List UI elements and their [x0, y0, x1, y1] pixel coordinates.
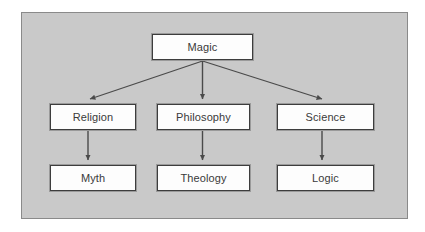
node-label-logic: Logic: [312, 173, 339, 184]
node-label-religion: Religion: [73, 112, 114, 123]
node-label-philosophy: Philosophy: [176, 112, 231, 123]
node-logic[interactable]: Logic: [277, 165, 374, 191]
node-magic[interactable]: Magic: [152, 34, 253, 60]
node-label-magic: Magic: [188, 42, 218, 53]
node-myth[interactable]: Myth: [50, 165, 136, 191]
node-religion[interactable]: Religion: [50, 104, 136, 130]
node-label-myth: Myth: [81, 173, 105, 184]
node-label-theology: Theology: [180, 173, 226, 184]
node-theology[interactable]: Theology: [157, 165, 250, 191]
diagram-root: Magic Religion Philosophy Science Myth T…: [0, 0, 425, 232]
node-philosophy[interactable]: Philosophy: [157, 104, 250, 130]
node-label-science: Science: [306, 112, 346, 123]
node-science[interactable]: Science: [277, 104, 374, 130]
